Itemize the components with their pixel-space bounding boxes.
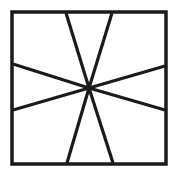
segment-top-left	[66, 13, 89, 88]
segment-right-lower	[89, 88, 165, 110]
radiating-segments-group	[13, 13, 165, 163]
figure-canvas	[0, 0, 179, 178]
line-figure-svg	[0, 0, 179, 178]
segment-bottom-left	[67, 88, 89, 163]
segment-bottom-right	[89, 88, 113, 163]
segment-left-lower	[13, 88, 89, 110]
segment-left-upper	[13, 64, 89, 88]
segment-top-right	[89, 13, 112, 88]
segment-right-upper	[89, 66, 165, 88]
